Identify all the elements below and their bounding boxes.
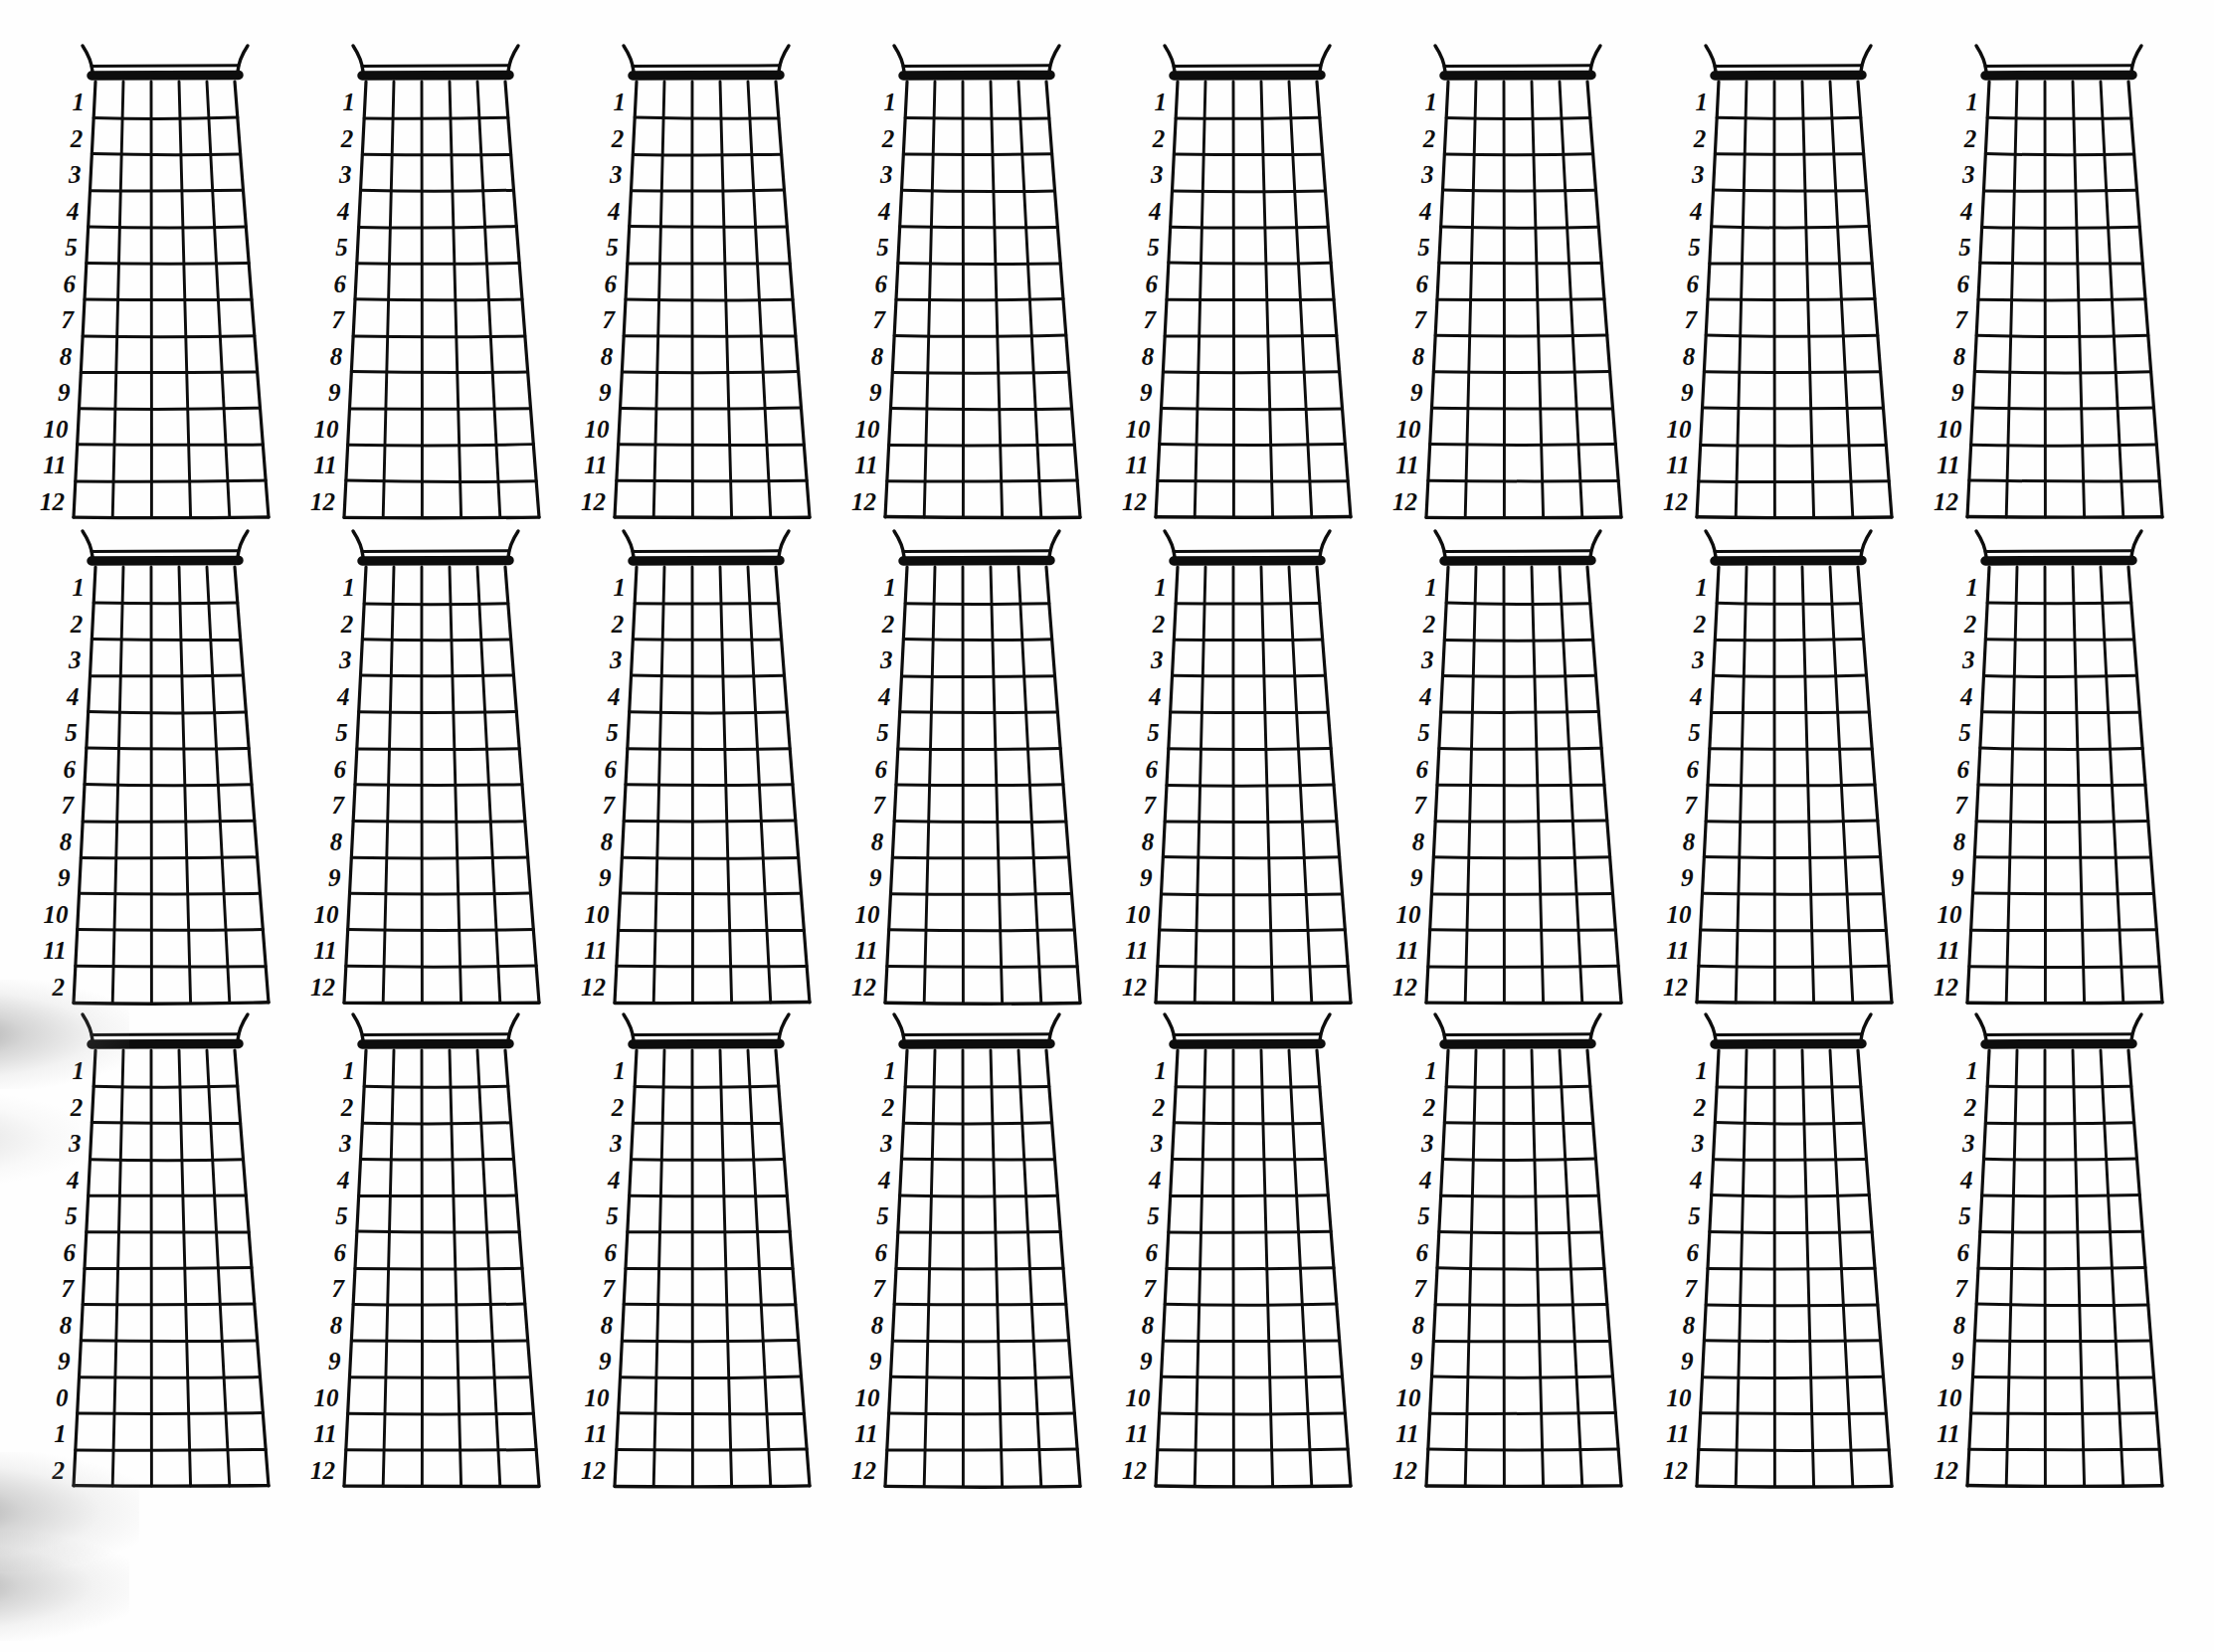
fretboard-diagram[interactable]: 123456789101112	[1918, 999, 2194, 1516]
fretboard-diagram[interactable]: 123456789101112	[1918, 515, 2194, 1032]
fretboard-diagram[interactable]: 123456789101112	[835, 30, 1112, 547]
guitar-neck: 123456789101112	[1918, 999, 2194, 1516]
fretboard-diagram[interactable]: 123456789101112	[565, 515, 841, 1032]
fret-wire	[362, 154, 510, 155]
fretboard-diagram[interactable]: 123456789101112	[1377, 999, 1653, 1516]
fret-wire	[898, 1232, 1060, 1233]
fretboard-diagram[interactable]: 123456789101112	[1647, 30, 1924, 547]
fretboard-diagram[interactable]: 123456789101112	[1106, 515, 1383, 1032]
fret-wire	[905, 604, 1049, 605]
headstock-curl-left	[1435, 46, 1445, 72]
fretboard-diagram[interactable]: 123456789101112	[1647, 515, 1924, 1032]
guitar-neck: 123456789101112	[1106, 999, 1383, 1516]
fretboard-diagram[interactable]: 123456789101112	[1377, 30, 1653, 547]
neck-drawing	[24, 515, 300, 1032]
fretboard-diagram[interactable]: 123456789101112	[1106, 30, 1383, 547]
fret-wire	[622, 1341, 798, 1342]
fretboard-diagram[interactable]: 123456789101112	[1647, 999, 1924, 1516]
fret-wire	[1971, 1413, 2157, 1414]
headstock-curl-right	[1320, 531, 1330, 557]
fret-wire	[1703, 408, 1884, 409]
fret-wire	[361, 190, 514, 191]
headstock-curl-right	[1049, 46, 1059, 72]
neck-drawing	[294, 30, 571, 547]
fret-wire	[626, 785, 793, 786]
fret-wire	[351, 857, 527, 858]
fretboard-diagram[interactable]: 123456789101112	[565, 999, 841, 1516]
nut-thin-line	[1444, 66, 1591, 67]
fretboard-diagram[interactable]: 123456789101112	[1918, 30, 2194, 547]
fretboard-diagram[interactable]: 123456789101112	[835, 999, 1112, 1516]
nut-thick-bar	[633, 1043, 780, 1044]
guitar-neck: 123456789101112	[1377, 30, 1653, 547]
fretboard-diagram[interactable]: 123456789101112	[835, 515, 1112, 1032]
headstock-curl-left	[894, 531, 904, 557]
fret-wire	[633, 154, 781, 155]
fret-wire	[1969, 1449, 2159, 1450]
fret-wire	[1430, 445, 1616, 446]
guitar-neck: 123456789101112	[835, 30, 1112, 547]
nut-thin-line	[1715, 66, 1862, 67]
fret-wire	[1701, 445, 1887, 446]
fretboard-diagram[interactable]: 12345678910112	[24, 515, 300, 1032]
nut-thick-bar	[1444, 1043, 1591, 1044]
fret-wire	[1974, 1341, 2150, 1342]
fret-wire	[1715, 1123, 1863, 1124]
fret-wire	[1432, 893, 1613, 894]
nut-thin-line	[903, 66, 1050, 67]
fret-wire	[346, 480, 536, 481]
fretboard-diagram[interactable]: 123456789101112	[1377, 515, 1653, 1032]
fret-wire	[1697, 1486, 1892, 1487]
fret-wire	[1715, 640, 1863, 641]
fret-wire	[619, 445, 805, 446]
fret-wire	[357, 263, 519, 264]
fret-wire	[1428, 966, 1618, 967]
fret-wire	[1969, 967, 2159, 968]
headstock-curl-left	[894, 46, 904, 72]
fret-wire	[91, 1160, 244, 1161]
fret-wire	[1974, 857, 2150, 858]
guitar-neck: 123456789101112	[565, 515, 841, 1032]
fretboard-diagram[interactable]: 123456789101112	[24, 30, 300, 547]
headstock-curl-left	[894, 1014, 904, 1040]
fret-wire	[1162, 409, 1343, 410]
nut-thick-bar	[1444, 560, 1591, 561]
fret-wire	[630, 712, 788, 713]
headstock-curl-right	[2131, 531, 2141, 557]
headstock-curl-right	[1049, 531, 1059, 557]
neck-drawing	[1377, 515, 1653, 1032]
nut-thick-bar	[903, 560, 1050, 561]
headstock-curl-left	[83, 531, 92, 557]
nut-thin-line	[92, 66, 239, 67]
neck-drawing	[1918, 30, 2194, 547]
neck-drawing	[1106, 30, 1383, 547]
guitar-neck: 123456789101112	[1106, 30, 1383, 547]
fret-wire	[902, 190, 1055, 191]
headstock-curl-left	[1976, 46, 1986, 72]
fretboard-diagram[interactable]: 123456789101112	[565, 30, 841, 547]
fretboard-diagram[interactable]: 123456789101112	[294, 999, 571, 1516]
fret-wire	[1443, 190, 1596, 191]
nut-thick-bar	[1715, 560, 1862, 561]
fretboard-diagram[interactable]: 123456789101112	[294, 515, 571, 1032]
guitar-neck: 123456789101112	[1647, 515, 1924, 1032]
fret-wire	[1985, 1123, 2133, 1124]
fret-wire	[1980, 1231, 2142, 1232]
nut-thin-line	[1715, 551, 1862, 552]
fret-wire	[89, 712, 247, 713]
fret-wire	[353, 336, 525, 337]
fretboard-diagram[interactable]: 123456789101112	[1106, 999, 1383, 1516]
nut-thick-bar	[633, 75, 780, 76]
string-line	[1774, 82, 1775, 517]
fret-wire	[74, 1486, 269, 1487]
fretboard-diagram[interactable]: 123456789012	[24, 999, 300, 1516]
fretboard-diagram[interactable]: 123456789101112	[294, 30, 571, 547]
fret-wire	[630, 1195, 788, 1196]
fret-wire	[1703, 893, 1884, 894]
fret-wire	[1430, 930, 1616, 931]
fret-wire	[351, 371, 527, 372]
fret-wire	[353, 1304, 525, 1305]
fret-wire	[1160, 445, 1346, 446]
fret-wire	[93, 1086, 238, 1087]
neck-drawing	[835, 515, 1112, 1032]
